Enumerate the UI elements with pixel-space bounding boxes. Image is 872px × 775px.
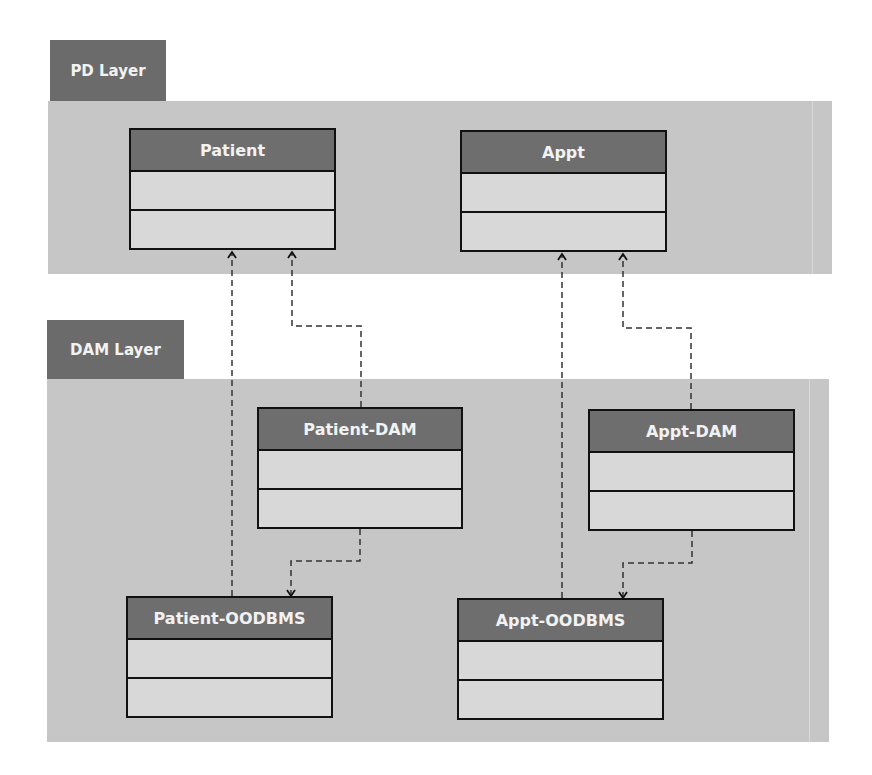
class-appt-dam[interactable]: Appt-DAM (588, 409, 795, 531)
class-appt-name: Appt (462, 132, 665, 174)
class-patient-oodbms-name: Patient-OODBMS (128, 598, 331, 640)
class-appt[interactable]: Appt (460, 130, 667, 252)
class-appt-methods (462, 211, 665, 250)
class-patient-attributes (131, 172, 334, 209)
class-patient-dam-attributes (259, 451, 461, 488)
class-patient-methods (131, 209, 334, 248)
class-patient-oodbms-methods (128, 677, 331, 716)
class-appt-oodbms-attributes (459, 642, 662, 679)
pd-layer-label: PD Layer (70, 62, 145, 80)
pd-layer-tab: PD Layer (50, 40, 166, 101)
dam-layer-tab: DAM Layer (47, 320, 184, 379)
class-appt-dam-name: Appt-DAM (590, 411, 793, 453)
class-patient-oodbms[interactable]: Patient-OODBMS (126, 596, 333, 718)
class-patient[interactable]: Patient (129, 128, 336, 250)
class-appt-oodbms-name: Appt-OODBMS (459, 600, 662, 642)
class-patient-name: Patient (131, 130, 334, 172)
class-appt-oodbms[interactable]: Appt-OODBMS (457, 598, 664, 720)
dam-layer-label: DAM Layer (70, 341, 161, 359)
class-appt-dam-attributes (590, 453, 793, 490)
class-appt-oodbms-methods (459, 679, 662, 718)
class-patient-dam-name: Patient-DAM (259, 409, 461, 451)
class-appt-dam-methods (590, 490, 793, 529)
class-patient-oodbms-attributes (128, 640, 331, 677)
class-patient-dam[interactable]: Patient-DAM (257, 407, 463, 529)
class-patient-dam-methods (259, 488, 461, 527)
class-appt-attributes (462, 174, 665, 211)
